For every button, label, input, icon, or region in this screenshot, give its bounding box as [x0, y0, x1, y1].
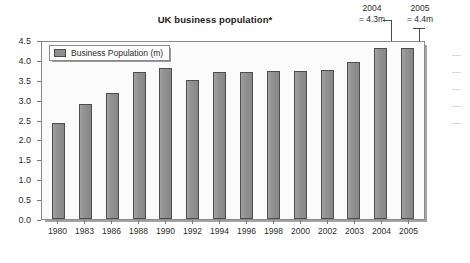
bar-1990[interactable]: [159, 68, 172, 219]
x-tick-label-2002: 2002: [314, 226, 341, 240]
x-tick-mark: [273, 220, 274, 224]
x-tick-slot: [233, 220, 260, 225]
x-tick-slot: [44, 220, 71, 225]
x-tick-label-1986: 1986: [98, 226, 125, 240]
y-axis-labels: 0.00.51.01.52.02.53.03.54.04.5: [0, 41, 36, 220]
y-tick-label: 1.0: [18, 175, 31, 185]
annotation-2004: 2004 = 4.3m: [350, 3, 394, 24]
bar-1996[interactable]: [240, 72, 253, 219]
x-tick-label-1980: 1980: [44, 226, 71, 240]
bar-slot: [260, 42, 287, 219]
bar-2005[interactable]: [401, 48, 414, 219]
x-tick-mark: [192, 220, 193, 224]
x-tick-mark: [84, 220, 85, 224]
bar-slot: [126, 42, 153, 219]
x-tick-mark: [327, 220, 328, 224]
x-tick-slot: [179, 220, 206, 225]
chart-figure: UK business population* 2004 = 4.3m 2005…: [0, 0, 470, 263]
y-tick-label: 0.0: [18, 215, 31, 225]
x-tick-slot: [152, 220, 179, 225]
bar-2004[interactable]: [374, 48, 387, 219]
x-tick-label-1996: 1996: [233, 226, 260, 240]
bar-1983[interactable]: [79, 104, 92, 219]
x-tick-label-2005: 2005: [395, 226, 422, 240]
margin-mark: [452, 106, 461, 107]
bar-slot: [340, 42, 367, 219]
bar-slot: [152, 42, 179, 219]
y-tick-label: 2.0: [18, 135, 31, 145]
bar-1988[interactable]: [133, 72, 146, 219]
legend-label: Business Population (m): [71, 48, 163, 58]
bar-1998[interactable]: [267, 71, 280, 219]
bar-slot: [99, 42, 126, 219]
x-tick-label-1988: 1988: [125, 226, 152, 240]
y-tick-label: 4.5: [18, 36, 31, 46]
x-tick-slot: [206, 220, 233, 225]
x-tick-label-1998: 1998: [260, 226, 287, 240]
x-tick-label-1992: 1992: [179, 226, 206, 240]
x-tick-mark: [165, 220, 166, 224]
x-tick-mark: [57, 220, 58, 224]
x-tick-mark: [408, 220, 409, 224]
x-tick-mark: [138, 220, 139, 224]
x-tick-label-2003: 2003: [341, 226, 368, 240]
bar-1992[interactable]: [186, 80, 199, 219]
bar-slot: [233, 42, 260, 219]
bar-slot: [72, 42, 99, 219]
annotation-2004-value: = 4.3m: [350, 14, 394, 25]
margin-mark: [452, 72, 461, 73]
margin-mark: [452, 55, 461, 56]
x-tick-slot: [98, 220, 125, 225]
bar-group: [42, 42, 424, 219]
bar-slot: [45, 42, 72, 219]
x-tick-label-2004: 2004: [368, 226, 395, 240]
annotation-2005: 2005 = 4.4m: [398, 3, 442, 24]
x-tick-mark: [300, 220, 301, 224]
y-tick-label: 0.5: [18, 195, 31, 205]
bar-slot: [206, 42, 233, 219]
x-tick-label-2000: 2000: [287, 226, 314, 240]
x-tick-slot: [341, 220, 368, 225]
bar-2003[interactable]: [347, 62, 360, 219]
annotation-2005-value: = 4.4m: [398, 14, 442, 25]
x-axis-labels: 1980198319861988199019921994199619982000…: [41, 226, 425, 240]
bar-1994[interactable]: [213, 72, 226, 219]
x-tick-label-1994: 1994: [206, 226, 233, 240]
bar-slot: [314, 42, 341, 219]
x-tick-mark: [246, 220, 247, 224]
x-tick-slot: [368, 220, 395, 225]
x-tick-label-1983: 1983: [71, 226, 98, 240]
margin-mark: [452, 123, 461, 124]
bar-slot: [287, 42, 314, 219]
legend-swatch-business-population: [54, 49, 66, 57]
x-tick-slot: [395, 220, 422, 225]
x-tick-mark: [111, 220, 112, 224]
plot-area: [42, 42, 424, 219]
x-tick-mark: [354, 220, 355, 224]
chart-legend: Business Population (m): [49, 45, 170, 61]
bar-2000[interactable]: [294, 71, 307, 219]
annotation-2005-year: 2005: [398, 3, 442, 14]
bar-1986[interactable]: [106, 93, 119, 219]
y-tick-label: 3.5: [18, 76, 31, 86]
bar-slot: [394, 42, 421, 219]
bar-slot: [367, 42, 394, 219]
y-tick-label: 3.0: [18, 96, 31, 106]
x-tick-mark: [381, 220, 382, 224]
margin-mark: [452, 89, 461, 90]
plot-frame: [41, 41, 425, 220]
x-tick-label-1990: 1990: [152, 226, 179, 240]
x-tick-slot: [314, 220, 341, 225]
bar-1980[interactable]: [52, 123, 65, 219]
x-axis-ticks: [41, 220, 425, 225]
x-tick-slot: [287, 220, 314, 225]
y-tick-label: 4.0: [18, 56, 31, 66]
x-tick-slot: [71, 220, 98, 225]
page-margin-marks: [452, 55, 468, 125]
y-tick-label: 2.5: [18, 116, 31, 126]
bar-2002[interactable]: [321, 70, 334, 219]
x-tick-slot: [260, 220, 287, 225]
y-tick-label: 1.5: [18, 155, 31, 165]
x-tick-slot: [125, 220, 152, 225]
bar-slot: [179, 42, 206, 219]
